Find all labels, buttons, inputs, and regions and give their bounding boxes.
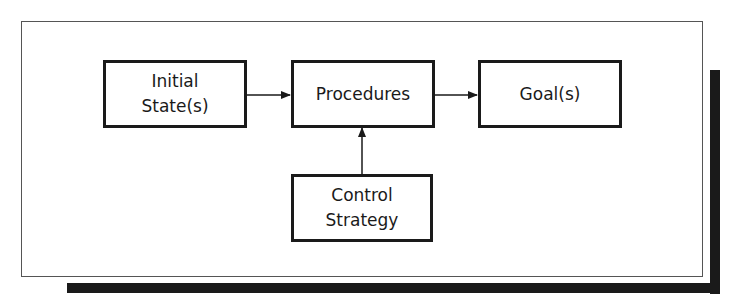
node-label-line: State(s) [141,94,208,119]
node-label-line: Strategy [326,208,399,233]
connector-arrows [0,0,734,302]
node-control-strategy: Control Strategy [291,174,433,242]
node-label-line: Initial [141,69,208,94]
node-procedures: Procedures [291,60,435,128]
node-label-line: Goal(s) [520,82,581,107]
node-label-line: Control [326,183,399,208]
node-goals: Goal(s) [478,60,622,128]
node-initial-states: Initial State(s) [103,60,247,128]
node-label-line: Procedures [316,82,410,107]
